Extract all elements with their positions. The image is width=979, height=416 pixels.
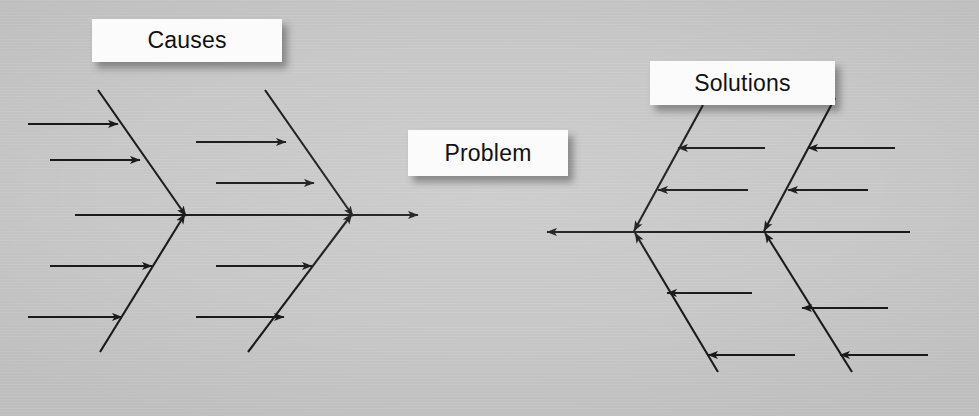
solutions-label-text: Solutions [694,72,790,95]
solution-rib-3 [635,233,718,372]
cause-rib-4 [248,214,352,352]
cause-rib-3 [100,214,185,352]
problem-label-box: Problem [408,130,568,176]
problem-label-text: Problem [444,142,531,165]
solution-rib-4 [765,233,852,372]
solution-rib-1 [634,105,703,231]
solutions-side-group [547,98,928,372]
cause-rib-2 [265,90,353,216]
cause-rib-1 [98,90,186,216]
fishbone-diagram-canvas: Causes Problem Solutions [0,0,979,416]
causes-label-box: Causes [92,19,282,62]
causes-label-text: Causes [147,29,226,52]
solution-rib-2 [764,98,835,231]
solutions-label-box: Solutions [650,61,835,105]
causes-side-group [28,90,418,352]
